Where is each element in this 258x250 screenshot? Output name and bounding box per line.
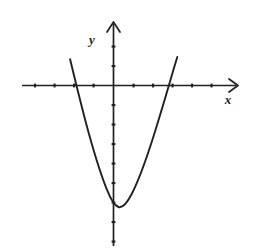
- graph-figure: y x: [0, 0, 258, 250]
- x-axis-label: x: [224, 92, 232, 107]
- graph-canvas: y x: [0, 0, 258, 250]
- y-tick: [112, 124, 116, 126]
- parabola-curve: [70, 57, 177, 207]
- y-tick: [112, 143, 116, 145]
- x-tick: [73, 84, 75, 88]
- y-axis-label: y: [87, 32, 95, 47]
- y-tick: [112, 241, 116, 243]
- y-tick: [112, 163, 116, 165]
- x-tick: [152, 84, 154, 88]
- x-tick: [34, 84, 36, 88]
- x-tick: [211, 84, 213, 88]
- x-tick: [133, 84, 135, 88]
- y-tick: [112, 104, 116, 106]
- y-tick: [112, 65, 116, 67]
- x-tick: [54, 84, 56, 88]
- y-axis-group: [107, 22, 120, 246]
- y-tick: [112, 182, 116, 184]
- x-tick: [93, 84, 95, 88]
- y-tick: [112, 46, 116, 48]
- x-tick: [172, 84, 174, 88]
- y-tick: [112, 221, 116, 223]
- x-tick: [191, 84, 193, 88]
